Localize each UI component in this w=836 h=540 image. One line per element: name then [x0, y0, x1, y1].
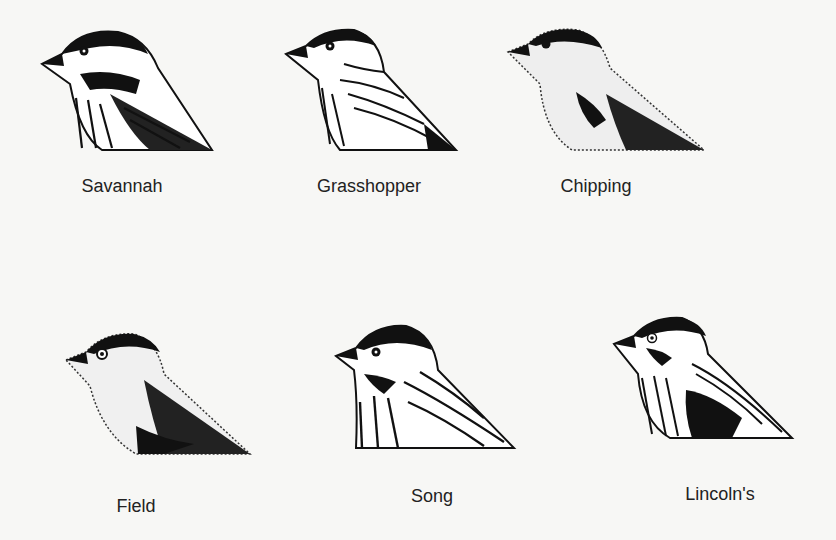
song-sparrow-illustration — [334, 322, 524, 452]
grasshopper-sparrow-illustration — [284, 24, 464, 154]
label-lincolns: Lincoln's — [685, 484, 754, 505]
savannah-sparrow-illustration — [40, 24, 220, 154]
label-savannah: Savannah — [81, 176, 162, 197]
chipping-sparrow-illustration — [506, 24, 706, 154]
field-sparrow-illustration — [64, 330, 254, 460]
label-grasshopper: Grasshopper — [317, 176, 421, 197]
label-song: Song — [411, 486, 453, 507]
label-field: Field — [116, 496, 155, 517]
lincolns-sparrow-illustration — [612, 314, 802, 444]
label-chipping: Chipping — [560, 176, 631, 197]
